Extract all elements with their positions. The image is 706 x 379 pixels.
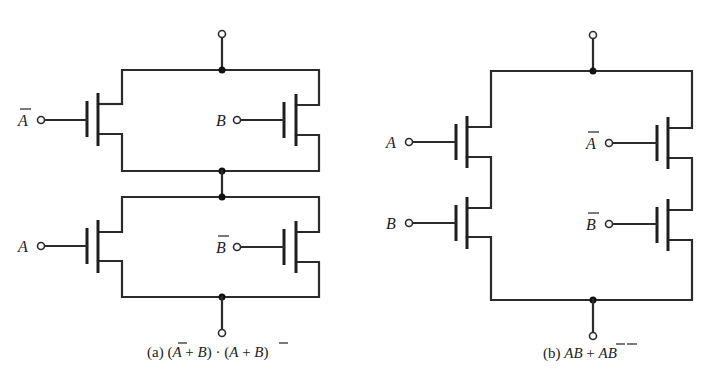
input-label: B [216,112,226,129]
b-bottom-terminal [590,333,597,340]
a-top-terminal [219,31,226,38]
circuit-b: A B A [385,32,692,363]
a-lower-parallel-block: A B [17,194,319,301]
b-left-series-branch: A B [385,116,491,249]
input-label: A [385,134,396,151]
a-lower-top-rail [98,197,319,232]
transistor-a-b: B [216,94,296,146]
junction-dot [590,68,597,75]
input-terminal [234,117,241,124]
transistor-b-bbar: B [586,199,668,251]
caption-b: (b) AB + AB [543,345,617,362]
transistor-switch-circuits: A B A [0,0,706,379]
input-terminal [234,244,241,251]
transistor-a-abar: A [17,93,98,146]
input-terminal [606,221,613,228]
junction-dot [219,67,226,74]
input-label: B [386,215,396,232]
a-lower-bottom-rail [98,261,319,297]
input-terminal [38,117,45,124]
a-bottom-terminal [219,330,226,337]
transistor-a-a: A [17,220,98,273]
input-label: A [17,238,28,255]
a-upper-bottom-rail [98,134,319,171]
input-terminal [38,243,45,250]
transistor-b-b: B [386,197,467,249]
input-terminal [406,139,413,146]
input-label: A [585,135,596,152]
transistor-b-a: A [385,116,467,168]
input-label: A [17,112,28,129]
b-right-series-branch: A B [585,117,692,251]
input-terminal [606,140,613,147]
input-terminal [406,220,413,227]
b-top-terminal [590,32,597,39]
b-top-rail [467,71,692,128]
a-upper-parallel-block: A B [17,67,319,175]
b-left-series-link [467,157,491,208]
b-bottom-rail [467,237,692,300]
caption-a: (a) (A + B) · (A + B) [147,344,269,361]
transistor-b-abar: A [585,117,668,169]
junction-dot [219,194,226,201]
input-label: B [216,239,226,256]
b-right-series-link [668,158,692,210]
input-label: B [586,216,596,233]
transistor-a-bbar: B [216,221,296,273]
circuit-a: A B A [17,31,319,362]
a-upper-top-rail [122,70,319,105]
